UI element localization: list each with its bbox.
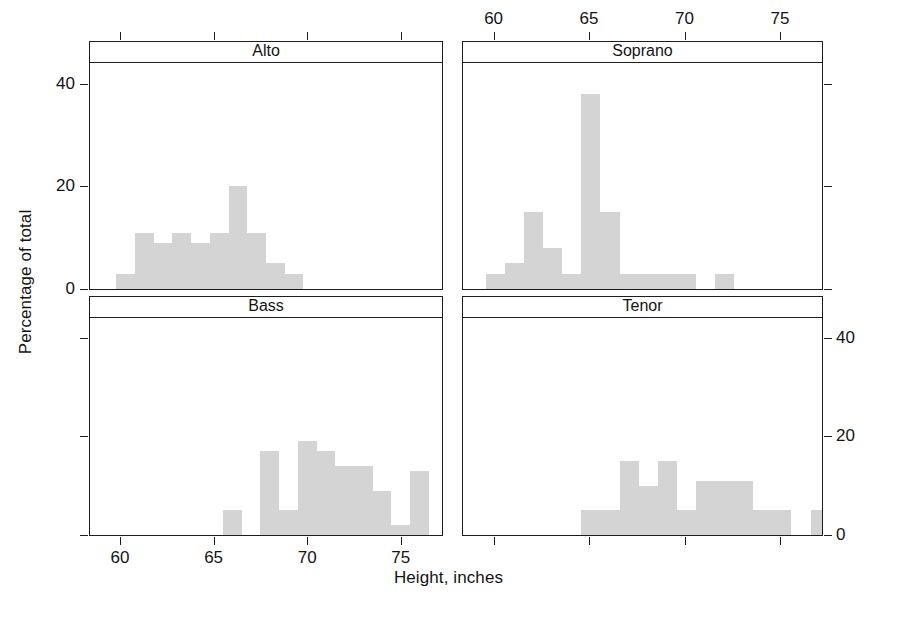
histogram-bar xyxy=(354,466,373,535)
y-tick-mark xyxy=(824,186,832,187)
y-tick-mark xyxy=(80,186,88,187)
y-tick-label: 0 xyxy=(836,525,845,545)
y-tick-mark xyxy=(824,289,832,290)
trellis-histogram-figure: Height, inches Percentage of total 60657… xyxy=(0,0,897,617)
histogram-bar xyxy=(677,274,696,289)
y-tick-mark xyxy=(824,535,832,536)
plot-area-alto xyxy=(90,63,442,289)
histogram-bar xyxy=(811,510,823,535)
x-tick-mark xyxy=(685,537,686,545)
x-tick-label: 65 xyxy=(204,548,223,568)
histogram-bar xyxy=(335,466,354,535)
histogram-bar xyxy=(298,441,317,535)
histogram-bar xyxy=(486,274,505,289)
histogram-bar xyxy=(562,274,581,289)
x-tick-mark xyxy=(307,32,308,40)
histogram-bar xyxy=(116,274,135,289)
histogram-bar xyxy=(135,233,154,290)
x-tick-mark xyxy=(494,537,495,545)
y-tick-mark xyxy=(80,535,88,536)
histogram-bar xyxy=(620,461,639,535)
x-tick-mark xyxy=(685,32,686,40)
histogram-bar xyxy=(391,525,410,535)
panel-title-soprano: Soprano xyxy=(612,43,673,59)
x-tick-mark xyxy=(401,537,402,545)
histogram-bar xyxy=(229,186,248,289)
histogram-bar xyxy=(715,274,734,289)
histogram-bar xyxy=(285,274,304,289)
histogram-bar xyxy=(715,481,734,535)
x-tick-label: 60 xyxy=(111,548,130,568)
histogram-bar xyxy=(696,481,715,535)
histogram-bar xyxy=(581,510,600,535)
panel-strip-bass: Bass xyxy=(89,296,443,318)
histogram-bar xyxy=(677,510,696,535)
y-tick-mark xyxy=(80,84,88,85)
x-tick-mark xyxy=(307,537,308,545)
y-tick-label: 20 xyxy=(836,426,855,446)
panel-title-alto: Alto xyxy=(252,43,280,59)
histogram-bar xyxy=(279,510,298,535)
histogram-bar xyxy=(172,233,191,290)
histogram-bar xyxy=(658,274,677,289)
panel-frame-soprano xyxy=(462,62,823,290)
histogram-bar xyxy=(543,248,562,289)
y-tick-mark xyxy=(80,436,88,437)
histogram-bar xyxy=(317,451,336,535)
y-tick-mark xyxy=(824,436,832,437)
x-tick-label: 65 xyxy=(580,9,599,29)
histogram-bar xyxy=(658,461,677,535)
histogram-bar xyxy=(581,94,600,289)
histogram-bar xyxy=(191,243,210,289)
y-tick-mark xyxy=(80,289,88,290)
y-tick-label: 40 xyxy=(836,328,855,348)
y-tick-mark xyxy=(80,338,88,339)
histogram-bar xyxy=(639,274,658,289)
plot-area-bass xyxy=(90,318,442,535)
histogram-bar xyxy=(524,212,543,289)
panel-bass: Bass xyxy=(89,296,443,536)
x-tick-mark xyxy=(780,32,781,40)
histogram-bar xyxy=(734,481,753,535)
histogram-bar xyxy=(753,510,772,535)
plot-area-soprano xyxy=(463,63,822,289)
x-axis-title: Height, inches xyxy=(0,568,897,588)
x-tick-mark xyxy=(589,537,590,545)
y-tick-label: 0 xyxy=(37,279,75,299)
histogram-bar xyxy=(210,233,229,290)
y-tick-mark xyxy=(824,84,832,85)
x-tick-mark xyxy=(589,32,590,40)
histogram-bar xyxy=(266,263,285,289)
x-tick-label: 60 xyxy=(484,9,503,29)
panel-strip-soprano: Soprano xyxy=(462,41,823,63)
x-tick-mark xyxy=(401,32,402,40)
histogram-bar xyxy=(154,243,173,289)
x-tick-mark xyxy=(214,537,215,545)
histogram-bar xyxy=(373,491,392,535)
y-tick-label: 20 xyxy=(37,176,75,196)
x-tick-mark xyxy=(120,537,121,545)
histogram-bar xyxy=(620,274,639,289)
x-tick-label: 75 xyxy=(391,548,410,568)
x-tick-label: 75 xyxy=(771,9,790,29)
histogram-bar xyxy=(772,510,791,535)
panel-frame-bass xyxy=(89,317,443,536)
panel-strip-tenor: Tenor xyxy=(462,296,823,318)
histogram-bar xyxy=(247,233,266,290)
panel-alto: Alto xyxy=(89,41,443,290)
histogram-bar xyxy=(600,510,619,535)
panel-strip-alto: Alto xyxy=(89,41,443,63)
x-tick-label: 70 xyxy=(298,548,317,568)
x-tick-mark xyxy=(120,32,121,40)
x-tick-mark xyxy=(494,32,495,40)
histogram-bar xyxy=(260,451,279,535)
panel-title-tenor: Tenor xyxy=(622,298,662,314)
panel-frame-tenor xyxy=(462,317,823,536)
y-tick-label: 40 xyxy=(37,74,75,94)
y-tick-mark xyxy=(824,338,832,339)
panel-tenor: Tenor xyxy=(462,296,823,536)
x-tick-label: 70 xyxy=(675,9,694,29)
x-tick-mark xyxy=(780,537,781,545)
x-tick-mark xyxy=(214,32,215,40)
panel-frame-alto xyxy=(89,62,443,290)
